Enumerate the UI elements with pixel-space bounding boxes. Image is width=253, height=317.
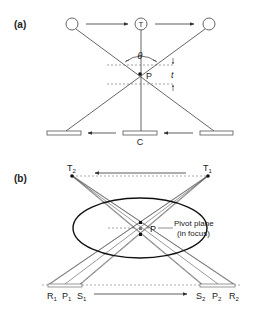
- point-below-pivot: [139, 233, 142, 236]
- pivot-label: P: [146, 71, 152, 81]
- pivot-plane-label-line2: (in focus): [177, 229, 210, 238]
- point-above-pivot: [139, 221, 142, 224]
- panel-b-label: (b): [14, 173, 27, 184]
- film-left: [47, 131, 81, 135]
- film-center: [123, 131, 157, 135]
- film-label-s2: S2: [196, 291, 206, 302]
- pivot-plane-label-line1: Pivot plane: [174, 219, 214, 228]
- tube-pos-1-label: T1: [203, 163, 213, 174]
- panel-a: (a) T θ t P C: [14, 18, 233, 147]
- tube-label: T: [139, 21, 144, 28]
- pivot-point: [139, 227, 142, 230]
- film-right: [200, 131, 233, 135]
- film-label-s1: S1: [77, 291, 87, 302]
- film-label-p1: P1: [62, 291, 72, 302]
- tube-pos-2-point: [70, 174, 74, 178]
- tube-right-circle: [203, 18, 215, 30]
- tube-left-circle: [66, 18, 78, 30]
- beam-left-to-right: [76, 29, 214, 131]
- panel-b: (b) T2 T1: [14, 163, 240, 302]
- film-label-p2: P2: [212, 291, 222, 302]
- film-right-bar: [200, 284, 235, 287]
- beam-right-to-left: [66, 29, 205, 131]
- pivot-point: [138, 72, 142, 76]
- film-label: C: [137, 137, 144, 147]
- thickness-label: t: [171, 70, 174, 80]
- film-left-bar: [48, 284, 82, 287]
- tomography-diagram: (a) T θ t P C: [0, 0, 253, 317]
- pivot-label: P: [150, 224, 156, 234]
- film-label-r2: R2: [229, 291, 240, 302]
- film-label-r1: R1: [47, 291, 58, 302]
- angle-theta-label: θ: [138, 51, 143, 61]
- tube-pos-2-label: T2: [67, 163, 77, 174]
- tube-pos-1-point: [206, 174, 210, 178]
- panel-a-label: (a): [14, 19, 26, 30]
